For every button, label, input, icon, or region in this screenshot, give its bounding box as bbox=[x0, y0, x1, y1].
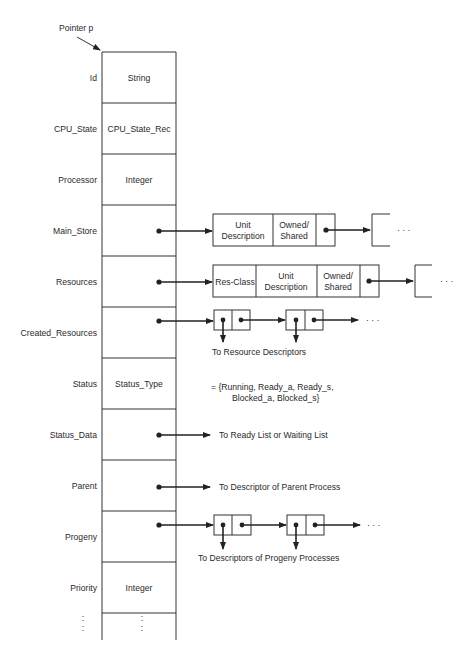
cell-more-2: : bbox=[141, 623, 143, 633]
status-values-line-1: = {Running, Ready_a, Ready_s, bbox=[211, 382, 334, 392]
field-labels: Id CPU_State Processor Main_Store Resour… bbox=[21, 73, 98, 633]
cell-id-type: String bbox=[128, 73, 151, 83]
ellipsis: · · · bbox=[397, 225, 410, 235]
status-data-target: To Ready List or Waiting List bbox=[219, 430, 328, 440]
node-cell-res-class: Res-Class bbox=[215, 277, 255, 287]
node-cell-owned: Owned/ bbox=[323, 271, 353, 281]
parent-target: To Descriptor of Parent Process bbox=[219, 482, 340, 492]
field-label-processor: Processor bbox=[58, 175, 97, 185]
node-cell-description: Description bbox=[265, 282, 308, 292]
parent-pointer: To Descriptor of Parent Process bbox=[156, 482, 340, 492]
cell-priority-type: Integer bbox=[126, 583, 153, 593]
next-node-bracket bbox=[415, 265, 432, 297]
ellipsis: · · · bbox=[440, 276, 453, 286]
field-label-cpu-state: CPU_State bbox=[54, 124, 97, 134]
cell-status-type: Status_Type bbox=[115, 379, 163, 389]
created-resources-list: · · · To Resource Descriptors bbox=[156, 310, 379, 357]
field-label-more-2: : bbox=[82, 623, 84, 633]
pointer-label: Pointer p bbox=[59, 23, 94, 33]
node-cell-shared: Shared bbox=[324, 282, 352, 292]
ellipsis: · · · bbox=[367, 520, 380, 530]
field-label-main-store: Main_Store bbox=[53, 226, 97, 236]
cell-cpu-state-type: CPU_State_Rec bbox=[107, 124, 171, 134]
field-label-more-1: : bbox=[82, 613, 84, 623]
process-descriptor-diagram: Pointer p Id CPU_State Processor Main_St… bbox=[0, 0, 475, 656]
pointer-arrow-icon bbox=[77, 37, 100, 50]
field-label-id: Id bbox=[90, 73, 97, 83]
node-cell-description: Description bbox=[222, 231, 265, 241]
ellipsis: · · · bbox=[366, 315, 379, 325]
created-resources-caption: To Resource Descriptors bbox=[212, 347, 306, 357]
field-label-resources: Resources bbox=[56, 277, 97, 287]
field-label-parent: Parent bbox=[72, 481, 98, 491]
main-store-list: Unit Description Owned/ Shared · · · bbox=[156, 214, 410, 246]
field-label-status-data: Status_Data bbox=[50, 430, 98, 440]
status-values-line-2: Blocked_a, Blocked_s} bbox=[232, 393, 320, 403]
descriptor-table bbox=[102, 52, 176, 640]
node-cell-owned: Owned/ bbox=[279, 220, 309, 230]
progeny-caption: To Descriptors of Progeny Processes bbox=[198, 553, 339, 563]
node-cell-shared: Shared bbox=[280, 231, 308, 241]
field-label-priority: Priority bbox=[70, 583, 97, 593]
cell-processor-type: Integer bbox=[126, 175, 153, 185]
node-cell-unit: Unit bbox=[235, 220, 251, 230]
resources-list: Res-Class Unit Description Owned/ Shared… bbox=[156, 265, 453, 297]
field-label-progeny: Progeny bbox=[65, 532, 98, 542]
node-cell-unit: Unit bbox=[278, 271, 294, 281]
cell-more-1: : bbox=[141, 613, 143, 623]
progeny-list: · · · To Descriptors of Progeny Processe… bbox=[156, 515, 380, 563]
pointer-p: Pointer p bbox=[59, 23, 100, 50]
status-values: = {Running, Ready_a, Ready_s, Blocked_a,… bbox=[211, 382, 334, 403]
field-label-created-resources: Created_Resources bbox=[21, 328, 97, 338]
field-label-status: Status bbox=[73, 379, 97, 389]
next-node-bracket bbox=[372, 214, 390, 246]
status-data-pointer: To Ready List or Waiting List bbox=[156, 430, 328, 440]
field-types: String CPU_State_Rec Integer Status_Type… bbox=[107, 73, 171, 633]
